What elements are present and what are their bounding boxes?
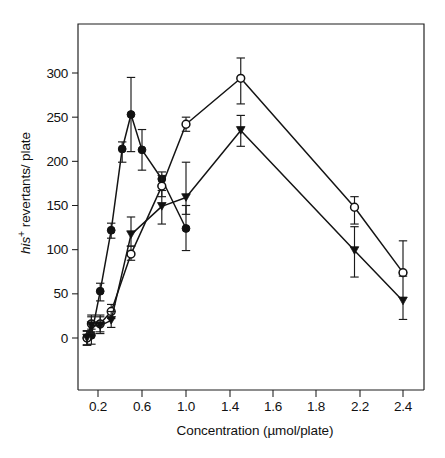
data-point-open-circle <box>158 182 166 190</box>
y-axis-title: his+ revertants/ plate <box>15 132 33 254</box>
data-point-filled-circle <box>107 226 115 234</box>
axes-frame <box>78 24 424 390</box>
y-tick-label: 100 <box>46 242 68 257</box>
data-point-filled-circle <box>138 146 146 154</box>
x-tick-label: 2.2 <box>351 399 369 414</box>
x-tick-label: 1.4 <box>221 399 240 414</box>
y-tick-label: 150 <box>46 198 68 213</box>
x-tick-label: 0.2 <box>89 399 107 414</box>
plot-frame <box>78 24 424 390</box>
figure-container: 050100150200250300 0.20.61.01.41.61.82.2… <box>0 0 445 458</box>
data-point-open-circle <box>182 120 190 128</box>
chart-canvas: 050100150200250300 0.20.61.01.41.61.82.2… <box>0 0 445 458</box>
y-tick-label: 250 <box>46 110 68 125</box>
data-point-filled-circle <box>182 225 190 233</box>
data-series-layer <box>83 58 408 345</box>
y-axis-ticks: 050100150200250300 <box>46 66 78 346</box>
data-point-open-circle <box>399 269 407 277</box>
x-axis-ticks: 0.20.61.01.41.61.82.22.4 <box>89 390 413 414</box>
series-filled-circle-series <box>83 77 190 345</box>
y-tick-label: 200 <box>46 154 68 169</box>
data-point-open-circle <box>127 250 135 258</box>
x-tick-label: 0.6 <box>133 399 151 414</box>
svg-text:his+ revertants/ plate: his+ revertants/ plate <box>15 132 33 254</box>
y-tick-label: 50 <box>54 286 68 301</box>
data-point-filled-circle <box>127 111 135 119</box>
x-tick-label: 1.8 <box>307 399 325 414</box>
x-tick-label: 1.0 <box>177 399 195 414</box>
data-point-filled-triangle <box>107 317 116 325</box>
data-point-open-circle <box>351 203 359 211</box>
x-tick-label: 2.4 <box>394 399 413 414</box>
error-bar <box>182 162 190 214</box>
x-tick-label: 1.6 <box>264 399 282 414</box>
data-point-filled-triangle <box>127 231 136 239</box>
series-line <box>87 115 186 338</box>
x-axis-title: Concentration (µmol/plate) <box>177 423 334 438</box>
data-point-filled-circle <box>118 145 126 153</box>
data-point-filled-triangle <box>182 194 191 202</box>
data-point-filled-circle <box>96 287 104 295</box>
y-tick-label: 0 <box>61 331 68 346</box>
data-point-filled-triangle <box>399 297 408 305</box>
data-point-open-circle <box>237 74 245 82</box>
y-tick-label: 300 <box>46 66 68 81</box>
series-line <box>87 130 403 338</box>
